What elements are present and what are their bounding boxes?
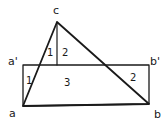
- triangle-abc: [23, 22, 149, 106]
- vertex-label-a: a: [9, 107, 16, 120]
- vertex-label-a-prime: a': [8, 55, 18, 68]
- region-label-rect-right: 2: [130, 72, 136, 83]
- vertex-label-b: b: [154, 108, 161, 120]
- region-label-triangle-right: 2: [62, 47, 68, 58]
- geometry-diagram: c a' b' a b 1 2 1 3 2: [0, 0, 164, 120]
- vertex-label-b-prime: b': [150, 55, 160, 68]
- region-label-rect-center: 3: [64, 77, 70, 88]
- region-label-rect-left: 1: [26, 75, 32, 86]
- vertex-label-c: c: [53, 4, 59, 17]
- region-label-triangle-left: 1: [47, 47, 53, 58]
